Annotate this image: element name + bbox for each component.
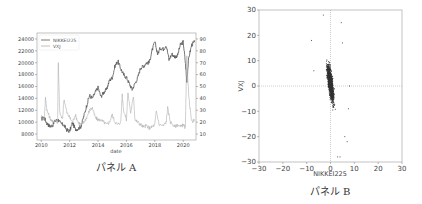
panel-b-caption: パネル B bbox=[310, 186, 351, 197]
panel-b-xlabel: NIKKEI225 bbox=[313, 170, 347, 178]
panel-b-ylabel: VXJ bbox=[237, 81, 245, 92]
panel-a-labels: date パネル A NIKKEI225 VXJ パネル B bbox=[0, 0, 422, 204]
panel-a-xlabel: date bbox=[110, 148, 121, 154]
panel-a-caption: パネル A bbox=[96, 162, 137, 173]
